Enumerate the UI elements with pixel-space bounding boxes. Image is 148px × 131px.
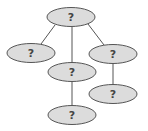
edge-root-left	[41, 25, 55, 44]
node-label: ?	[110, 48, 116, 61]
node-label: ?	[68, 11, 74, 24]
nodes: ??????	[7, 8, 137, 125]
node-label: ?	[69, 66, 75, 79]
node-label: ?	[69, 109, 75, 122]
tree-diagram: ??????	[0, 0, 148, 131]
edge-root-right	[88, 24, 104, 45]
node-bottom: ?	[48, 106, 96, 125]
node-left: ?	[7, 44, 55, 63]
node-right-child: ?	[89, 85, 137, 104]
node-middle: ?	[48, 63, 96, 82]
node-root: ?	[47, 8, 95, 27]
node-label: ?	[110, 88, 116, 101]
node-label: ?	[28, 47, 34, 60]
node-right: ?	[89, 45, 137, 64]
